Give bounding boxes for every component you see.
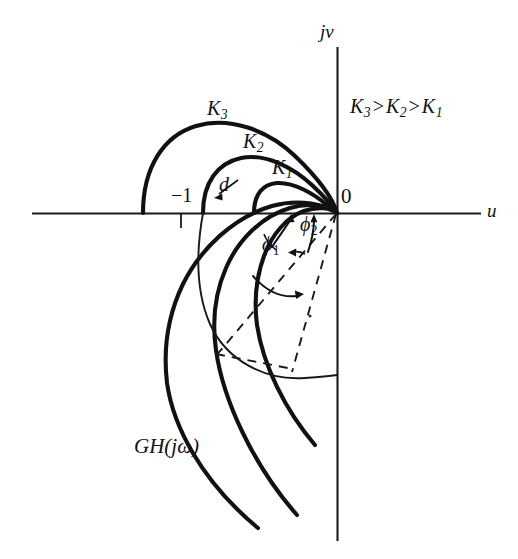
locus-k1 xyxy=(254,183,337,445)
curve-label-k3-sub: 3 xyxy=(220,107,227,122)
phi2-base: ϕ xyxy=(300,213,310,235)
gain-ordering-label: K3>K2>K1 xyxy=(350,96,442,120)
k2-curve-path xyxy=(203,157,337,515)
curve-label-k3: K3 xyxy=(207,98,228,122)
phi1-base: ϕ xyxy=(262,233,272,255)
angle-sweep-arrowhead xyxy=(295,291,304,299)
curve-label-k1-sub: 1 xyxy=(285,166,292,181)
gain-order-op1: > xyxy=(371,95,386,117)
phi2-leader-arrowhead xyxy=(288,249,296,257)
origin-label: 0 xyxy=(341,186,352,207)
gain-order-k2: K xyxy=(386,95,399,117)
gain-order-k1-sub: 1 xyxy=(435,105,442,120)
gain-order-k2-sub: 2 xyxy=(399,105,406,120)
gain-order-k3-sub: 3 xyxy=(363,105,370,120)
angle-sweep-indicator xyxy=(253,276,304,299)
gain-order-op2: > xyxy=(407,95,422,117)
curve-label-k3-base: K xyxy=(207,97,220,119)
phi2-label: ϕ2 xyxy=(300,214,318,238)
phi2-sub: 2 xyxy=(310,223,317,238)
gh-close-paren: ) xyxy=(192,434,199,458)
distance-marker-label: d xyxy=(219,174,229,194)
k1-curve-path xyxy=(254,183,337,445)
curve-label-k2: K2 xyxy=(243,131,264,155)
gh-base: GH xyxy=(134,434,164,458)
dashed-chord xyxy=(216,354,293,369)
locus-k2 xyxy=(203,157,337,515)
phi1-sub: 1 xyxy=(272,243,279,258)
nyquist-plot-canvas xyxy=(0,0,518,559)
gain-order-k1: K xyxy=(422,95,435,117)
curve-label-k1: K1 xyxy=(272,157,293,181)
curve-label-k1-base: K xyxy=(272,156,285,178)
critical-point-label: −1 xyxy=(171,185,192,205)
imaginary-axis-label: jv xyxy=(320,22,334,41)
scan-speck xyxy=(308,314,311,317)
curve-label-k2-base: K xyxy=(243,130,256,152)
gain-order-k3: K xyxy=(350,95,363,117)
real-axis-label: u xyxy=(487,201,497,220)
transfer-function-label: GH(jω) xyxy=(134,436,199,457)
gh-omega: ω xyxy=(177,434,192,458)
curve-label-k2-sub: 2 xyxy=(256,140,263,155)
phi1-label: ϕ1 xyxy=(262,234,280,258)
nyquist-figure: jv u 0 K3>K2>K1 K3 K2 K1 −1 d ϕ1 ϕ2 GH(j… xyxy=(0,0,518,559)
